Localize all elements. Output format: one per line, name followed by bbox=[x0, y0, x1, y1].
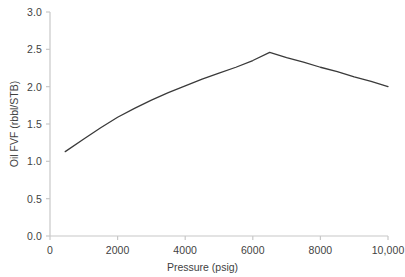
x-tick-label: 0 bbox=[47, 244, 53, 256]
chart-plot-area bbox=[0, 0, 405, 277]
chart-figure: 0.00.51.01.52.02.53.0 020004000600080001… bbox=[0, 0, 405, 277]
x-tick-label: 4000 bbox=[173, 244, 197, 256]
x-tick-label: 6000 bbox=[241, 244, 265, 256]
y-axis bbox=[46, 12, 50, 236]
x-tick-label: 8000 bbox=[309, 244, 333, 256]
x-tick-label: 10,000 bbox=[372, 244, 405, 256]
data-series-line bbox=[65, 52, 388, 151]
x-tick-label: 2000 bbox=[106, 244, 130, 256]
x-axis-title: Pressure (psig) bbox=[0, 261, 405, 273]
x-axis bbox=[50, 236, 388, 240]
x-axis-ticks bbox=[50, 236, 388, 240]
y-axis-title-wrap: Oil FVF (rbbl/STB) bbox=[6, 0, 22, 248]
y-axis-title: Oil FVF (rbbl/STB) bbox=[8, 81, 20, 167]
